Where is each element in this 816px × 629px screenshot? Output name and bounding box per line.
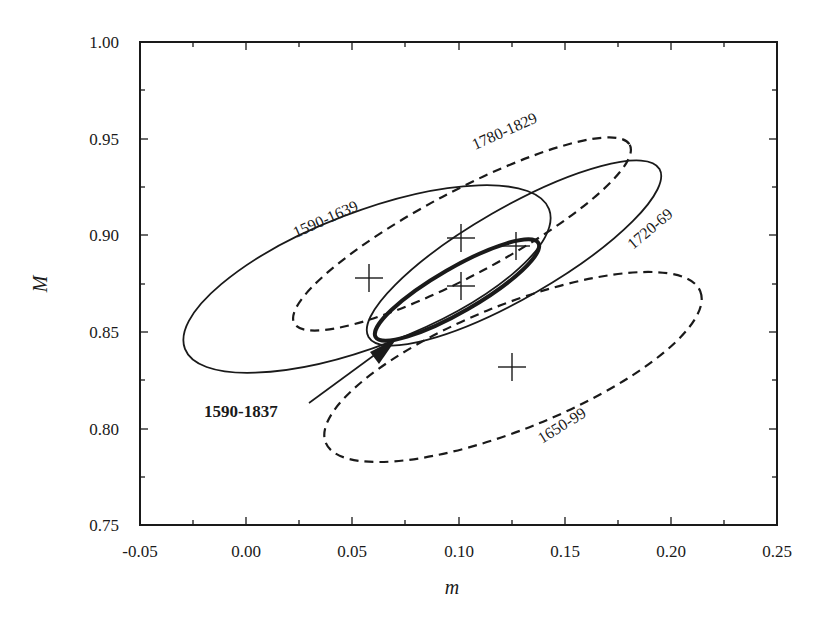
x-tick-labels: -0.05 0.00 0.05 0.10 0.15 0.20 0.25: [122, 542, 792, 561]
plus-marker: [502, 232, 530, 260]
ellipse-1590-1837: [365, 224, 550, 356]
label-1780-1829: 1780-1829: [469, 109, 539, 153]
label-1720-69: 1720-69: [624, 205, 676, 252]
y-tick-labels: 1.00 0.95 0.90 0.85 0.80 0.75: [89, 33, 119, 535]
y-tick-label: 0.80: [89, 420, 119, 439]
y-tick-label: 1.00: [89, 33, 119, 52]
y-tick-label: 0.75: [89, 516, 119, 535]
label-1590-1837: 1590-1837: [204, 402, 278, 421]
chart: -0.05 0.00 0.05 0.10 0.15 0.20 0.25 1.00…: [0, 0, 816, 629]
y-tick-label: 0.85: [89, 323, 119, 342]
annotation-arrow: [309, 338, 397, 403]
y-tick-label: 0.95: [89, 130, 119, 149]
x-tick-label: 0.10: [444, 542, 474, 561]
y-tick-label: 0.90: [89, 226, 119, 245]
label-1650-99: 1650-99: [535, 404, 589, 447]
x-tick-label: 0.00: [231, 542, 261, 561]
plus-marker: [498, 353, 526, 381]
plus-marker: [447, 224, 475, 252]
x-tick-label: -0.05: [122, 542, 157, 561]
x-tick-label: 0.20: [656, 542, 686, 561]
y-axis-title: M: [29, 274, 51, 293]
x-tick-label: 0.25: [762, 542, 792, 561]
x-axis-title: m: [445, 576, 459, 598]
x-tick-label: 0.05: [337, 542, 367, 561]
label-1590-1639: 1590-1639: [290, 197, 360, 241]
plus-marker: [355, 264, 383, 292]
x-tick-label: 0.15: [550, 542, 580, 561]
